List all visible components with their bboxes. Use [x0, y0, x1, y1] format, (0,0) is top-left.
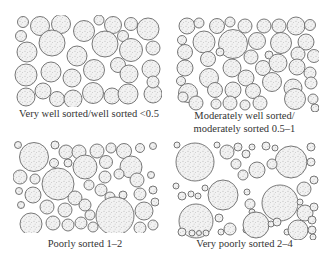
- grain-circle: [135, 202, 153, 220]
- grain-circle: [289, 59, 305, 75]
- grain-circle: [224, 223, 236, 235]
- grain-circle: [125, 18, 138, 31]
- grain-circle: [225, 17, 235, 27]
- grain-circle: [225, 82, 241, 98]
- caption-line: Very poorly sorted 2–4: [196, 238, 293, 249]
- grain-circle: [271, 33, 292, 54]
- grain-circle: [269, 54, 287, 72]
- grain-circle: [20, 143, 49, 172]
- grain-circle: [35, 83, 51, 99]
- caption-line: Very well sorted/well sorted <0.5: [19, 108, 159, 119]
- grain-circle: [218, 229, 224, 235]
- grain-circle: [90, 144, 104, 158]
- sorting-diagram: Very well sorted/well sorted <0.5 Modera…: [0, 0, 326, 260]
- grain-circle: [16, 188, 23, 195]
- grain-circle: [92, 31, 118, 57]
- grain-circle: [257, 19, 271, 33]
- grain-circle: [211, 99, 221, 109]
- grain-circle: [79, 199, 91, 211]
- grain-circle: [287, 17, 305, 35]
- grain-circle: [84, 180, 94, 190]
- grain-circle: [100, 156, 113, 169]
- grain-circle: [73, 155, 97, 179]
- grain-circle: [297, 182, 311, 196]
- grain-circle: [134, 222, 146, 233]
- grain-circle: [146, 41, 160, 55]
- grain-circle: [249, 33, 266, 50]
- grain-circle: [147, 76, 159, 88]
- grain-circle: [17, 42, 37, 62]
- grain-circle: [15, 142, 22, 149]
- grain-circle: [13, 170, 27, 184]
- grain-circle: [30, 174, 40, 184]
- grain-circle: [15, 64, 37, 86]
- grain-circle: [310, 203, 318, 211]
- grain-circle: [173, 183, 179, 189]
- grain-circle: [242, 150, 250, 158]
- grain-circle: [149, 186, 157, 194]
- grain-circle: [275, 146, 307, 178]
- grain-circle: [88, 222, 98, 232]
- grain-circle: [244, 189, 250, 195]
- grain-circle: [18, 17, 29, 28]
- grain-circle: [208, 83, 223, 98]
- grain-circle: [50, 159, 59, 168]
- grain-circle: [189, 230, 195, 236]
- grain-circle: [85, 210, 95, 220]
- grain-circle: [16, 31, 27, 42]
- grain-circle: [118, 84, 138, 104]
- grain-circle: [134, 188, 146, 200]
- grain-circle: [189, 96, 203, 110]
- grain-circle: [243, 212, 269, 238]
- grain-circle: [194, 18, 204, 28]
- grain-circle: [18, 202, 25, 209]
- grain-circle: [262, 142, 270, 150]
- caption-very-well-sorted: Very well sorted/well sorted <0.5: [0, 107, 178, 120]
- grain-circle: [136, 144, 145, 153]
- grain-circle: [214, 142, 220, 148]
- grain-circle: [310, 176, 318, 184]
- grain-circle: [96, 197, 134, 233]
- grain-circle: [308, 226, 316, 234]
- grain-circle: [40, 200, 54, 214]
- grain-circle: [238, 170, 248, 180]
- caption-moderately-sorted: Moderately well sorted/ moderately sorte…: [163, 109, 326, 135]
- grain-circle: [178, 92, 188, 102]
- panel-very-poorly-sorted: [172, 140, 320, 240]
- grain-circle: [39, 30, 65, 56]
- grain-circle: [104, 88, 120, 104]
- grain-circle: [130, 173, 144, 187]
- grain-circle: [202, 185, 208, 191]
- grain-circle: [210, 19, 225, 34]
- grain-circle: [94, 15, 104, 25]
- caption-line: Poorly sorted 1–2: [48, 238, 123, 249]
- grain-circle: [223, 96, 237, 110]
- grain-circle: [150, 143, 157, 150]
- grain-circle: [203, 230, 209, 236]
- grain-circle: [120, 39, 143, 62]
- grain-circle: [195, 193, 201, 199]
- grain-circle: [74, 21, 95, 42]
- grain-circle: [272, 19, 286, 33]
- grain-circle: [188, 191, 194, 197]
- grain-circle: [106, 143, 116, 153]
- grain-circle: [245, 199, 255, 209]
- grain-circle: [253, 96, 267, 110]
- grain-circle: [178, 36, 187, 45]
- grain-circle: [178, 228, 186, 236]
- grain-circle: [41, 62, 61, 82]
- grain-circle: [177, 60, 193, 76]
- grain-circle: [179, 18, 195, 34]
- grain-circle: [148, 172, 155, 179]
- grain-circle: [244, 50, 258, 64]
- grain-circle: [201, 52, 216, 67]
- grain-circle: [273, 218, 281, 226]
- grain-circle: [305, 77, 317, 89]
- grain-circle: [46, 216, 60, 230]
- grain-circle: [20, 213, 42, 233]
- grain-circle: [51, 141, 59, 149]
- panel-poorly-sorted: [13, 140, 159, 233]
- grain-circle: [176, 143, 214, 181]
- grain-circle: [75, 217, 87, 229]
- caption-line: moderately sorted 0.5–1: [163, 122, 326, 135]
